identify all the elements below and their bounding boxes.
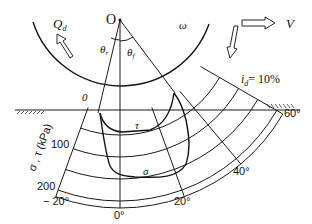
wheel-soil-diagram: O Qd ω V θr θf 0 id= 10% τ σ σ , τ (kPa)… xyxy=(0,0,312,224)
tick-20: 20° xyxy=(174,195,191,207)
label-zero: 0 xyxy=(82,91,88,103)
label-omega: ω xyxy=(179,19,187,31)
label-tau: τ xyxy=(135,119,140,131)
rotation-arrow-icon xyxy=(227,26,238,58)
tick-40: 40° xyxy=(233,165,250,177)
label-slip: id= 10% xyxy=(241,72,280,88)
tick-100: 100 xyxy=(51,138,69,150)
radial-axis-label: σ , τ (kPa) xyxy=(26,122,54,173)
torque-arrow-icon xyxy=(57,34,73,58)
ground-hatch-left xyxy=(17,111,44,114)
tick-60: 60° xyxy=(284,107,301,119)
label-theta-f: θf xyxy=(127,46,135,60)
label-theta-r: θr xyxy=(100,43,108,57)
polar-grid-rays xyxy=(56,67,283,209)
wheel-rim xyxy=(33,22,209,86)
velocity-arrow-icon xyxy=(242,17,275,29)
theta-f-arc xyxy=(120,37,133,41)
label-O: O xyxy=(106,12,116,27)
label-sigma: σ xyxy=(143,165,149,177)
label-V: V xyxy=(286,16,296,31)
label-Qd: Qd xyxy=(53,16,67,33)
tick-neg20: − 20° xyxy=(43,195,69,207)
polar-grid-arcs xyxy=(56,78,283,209)
theta-r-line xyxy=(98,20,120,113)
center-point xyxy=(119,19,122,22)
tick-200: 200 xyxy=(37,180,55,192)
tick-0: 0° xyxy=(114,209,125,221)
